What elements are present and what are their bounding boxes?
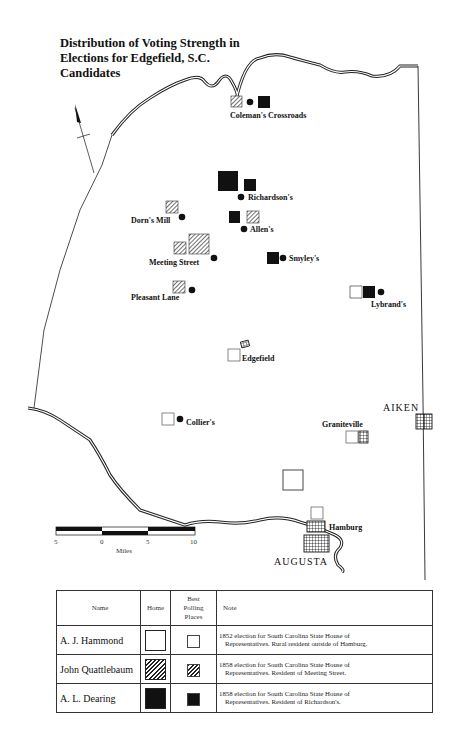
dot-marker-icon: [241, 226, 248, 233]
legend-table: Name Home Best Polling Places Note A. J.…: [56, 590, 433, 713]
label-edgefield: Edgefield: [242, 354, 275, 363]
place-allens[interactable]: Allen's: [229, 211, 274, 234]
dot-marker-icon: [247, 99, 254, 106]
label-smyleys: Smyley's: [289, 254, 319, 263]
candidate-name: John Quattlebaum: [57, 655, 141, 684]
candidate-note: 1858 election for South Carolina State H…: [217, 655, 433, 684]
scale-tick-5: 5: [146, 538, 150, 546]
header-polling-line-1: Best: [171, 595, 216, 604]
label-meeting-street: Meeting Street: [149, 258, 200, 267]
dot-marker-icon: [177, 416, 184, 423]
empty-marker-icon: [162, 413, 174, 425]
label-aiken: AIKEN: [383, 402, 419, 413]
river-north: [112, 55, 418, 135]
dot-marker-icon: [211, 255, 218, 262]
label-pleasant-lane: Pleasant Lane: [131, 293, 180, 302]
label-graniteville: Graniteville: [322, 420, 363, 429]
candidate-note: 1852 election for South Carolina State H…: [217, 626, 433, 655]
legend-row: A. L. Dearing 1858 election for South Ca…: [57, 684, 433, 713]
place-dorns-mill[interactable]: Dorn's Mill: [131, 201, 185, 225]
label-hamburg: Hamburg: [329, 523, 362, 532]
scale-unit: Miles: [116, 547, 132, 555]
county-boundary-west: [34, 135, 112, 408]
scale-tick-10: 10: [190, 538, 198, 546]
polling-solid-icon: [187, 693, 200, 706]
label-allens: Allen's: [250, 225, 274, 234]
place-richardsons[interactable]: Richardson's: [218, 171, 293, 202]
city-augusta[interactable]: AUGUSTA: [274, 535, 329, 567]
solid-marker-icon: [267, 252, 279, 264]
solid-marker-icon: [244, 179, 256, 191]
place-meeting-street[interactable]: Meeting Street: [149, 234, 217, 267]
town-grid-icon: [359, 431, 368, 443]
legend-row: A. J. Hammond 1852 election for South Ca…: [57, 626, 433, 655]
place-smyleys[interactable]: Smyley's: [267, 252, 319, 264]
note-line-1: 1858 election for South Carolina State H…: [219, 690, 350, 697]
place-lybrands[interactable]: Lybrand's: [350, 286, 406, 309]
solid-marker-icon: [258, 96, 270, 108]
polling-hatch-icon: [187, 664, 200, 677]
home-empty-icon: [145, 630, 166, 651]
hatch-marker-icon: [247, 211, 259, 223]
label-lybrands: Lybrand's: [371, 300, 406, 309]
scale-tick-0: 0: [100, 538, 104, 546]
candidate-name: A. J. Hammond: [57, 626, 141, 655]
note-line-2: Representatives. Rural resident outside …: [219, 640, 432, 649]
scale-tick-5w: 5: [54, 538, 58, 546]
legend-row: John Quattlebaum 1858 election for South…: [57, 655, 433, 684]
label-colemans: Coleman's Crossroads: [230, 111, 306, 120]
north-arrow-icon: [75, 104, 94, 173]
city-aiken[interactable]: AIKEN: [383, 402, 432, 429]
hatch-marker-icon: [231, 96, 242, 107]
empty-marker-icon: [311, 507, 323, 519]
place-edgefield[interactable]: Edgefield: [228, 340, 275, 363]
note-line-1: 1858 election for South Carolina State H…: [219, 661, 350, 668]
candidate-note: 1858 election for South Carolina State H…: [217, 684, 433, 713]
header-polling: Best Polling Places: [171, 591, 217, 626]
note-line-2: Representatives. Resident of Richardson'…: [219, 698, 432, 707]
label-colliers: Collier's: [186, 418, 215, 427]
county-boundary-east: [418, 66, 425, 580]
hatch-marker-icon: [173, 281, 185, 293]
label-richardsons: Richardson's: [248, 193, 293, 202]
empty-marker-icon: [228, 349, 240, 361]
home-marker-hammond-icon[interactable]: [283, 470, 303, 490]
home-solid-icon: [145, 688, 166, 709]
place-hamburg[interactable]: Hamburg: [307, 507, 362, 532]
town-grid-icon: [307, 521, 325, 532]
town-grid-icon: [240, 340, 249, 348]
solid-marker-icon: [229, 211, 240, 223]
hatch-marker-icon: [174, 242, 186, 254]
legend-header-row: Name Home Best Polling Places Note: [57, 591, 433, 626]
empty-marker-icon: [346, 431, 358, 443]
note-line-2: Representatives. Resident of Meeting Str…: [219, 669, 432, 678]
home-hatch-icon: [145, 659, 166, 680]
dot-marker-icon: [378, 289, 385, 296]
note-line-1: 1852 election for South Carolina State H…: [219, 632, 350, 639]
dot-marker-icon: [280, 255, 287, 262]
header-polling-line-3: Places: [171, 613, 216, 622]
header-home: Home: [141, 591, 171, 626]
header-polling-line-2: Polling: [171, 604, 216, 613]
place-colliers[interactable]: Collier's: [162, 413, 215, 427]
solid-marker-icon: [363, 286, 375, 298]
place-graniteville[interactable]: Graniteville: [322, 420, 368, 443]
scale-bar: 5 0 5 10 Miles: [54, 527, 198, 555]
dot-marker-icon: [238, 194, 245, 201]
dot-marker-icon: [179, 214, 186, 221]
place-pleasant-lane[interactable]: Pleasant Lane: [131, 281, 195, 302]
county-map: Coleman's Crossroads Richardson's Dorn's…: [0, 0, 453, 590]
label-dorns-mill: Dorn's Mill: [131, 216, 171, 225]
hatch-marker-large-icon: [189, 234, 209, 254]
polling-empty-icon: [187, 635, 200, 648]
place-colemans-crossroads[interactable]: Coleman's Crossroads: [230, 96, 306, 120]
candidate-name: A. L. Dearing: [57, 684, 141, 713]
header-note: Note: [217, 591, 433, 626]
solid-marker-large-icon: [218, 171, 238, 191]
label-augusta: AUGUSTA: [274, 556, 328, 567]
hatch-marker-icon: [166, 201, 178, 213]
dot-marker-icon: [189, 287, 196, 294]
header-name: Name: [57, 591, 141, 626]
empty-marker-icon: [350, 286, 362, 298]
town-grid-icon: [304, 535, 329, 552]
